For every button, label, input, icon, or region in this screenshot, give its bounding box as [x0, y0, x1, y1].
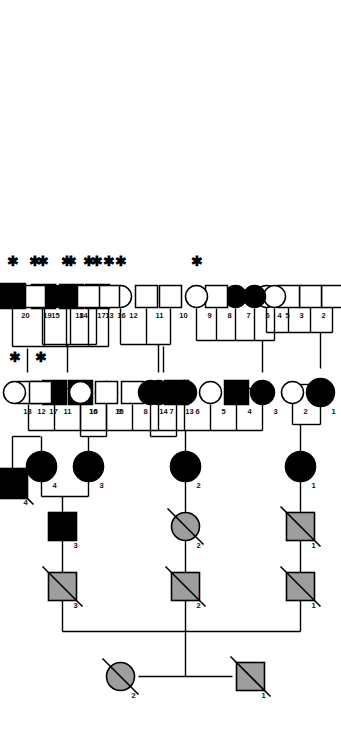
- id-label-VI-17: 17: [97, 311, 105, 320]
- asterisk-VI-12: ✱: [114, 253, 126, 267]
- person-VI-5[interactable]: [263, 285, 285, 307]
- id-label-VI-5: 5: [285, 311, 289, 320]
- person-IV-4b[interactable]: [0, 462, 33, 504]
- person-II-2[interactable]: [165, 566, 205, 606]
- id-label-VI-11: 11: [155, 311, 163, 320]
- asterisk-VI-20: ✱: [6, 253, 18, 267]
- id-label-V-16: 16: [89, 407, 97, 416]
- person-VI-9[interactable]: [185, 285, 207, 307]
- id-label-V-3: 3: [273, 407, 277, 416]
- id-label-V-11: 11: [63, 407, 71, 416]
- id-label-VI-15: 15: [51, 311, 59, 320]
- id-label-III-2: 2: [196, 541, 200, 550]
- person-V-4[interactable]: [224, 380, 248, 404]
- id-label-VI-20: 20: [21, 311, 29, 320]
- id-label-V-13: 13: [185, 407, 193, 416]
- asterisk-VI-17: ✱: [82, 253, 94, 267]
- id-label-VI-19: 19: [43, 311, 51, 320]
- person-II-3[interactable]: [42, 566, 82, 606]
- id-label-VI-10: 10: [179, 311, 187, 320]
- id-label-V-8: 8: [143, 407, 147, 416]
- id-label-I-1: 1: [261, 691, 265, 700]
- person-V-2[interactable]: [281, 381, 303, 403]
- person-VI-10[interactable]: [159, 285, 181, 307]
- id-label-VI-7: 7: [246, 311, 250, 320]
- asterisk-V-17: ✱: [34, 349, 46, 363]
- person-V-15[interactable]: [95, 381, 117, 403]
- id-label-IV-4b: 4: [23, 498, 27, 507]
- person-VI-19[interactable]: [23, 285, 45, 307]
- person-VI-17[interactable]: [77, 285, 99, 307]
- person-V-16[interactable]: [69, 381, 91, 403]
- person-V-5[interactable]: [199, 381, 221, 403]
- person-II-1[interactable]: [280, 566, 320, 606]
- person-V-14[interactable]: [138, 380, 162, 404]
- id-label-III-1: 1: [311, 541, 315, 550]
- id-label-V-17: 17: [49, 407, 57, 416]
- pedigree-figure: 1212312312344123456789101112131415161718…: [0, 0, 341, 736]
- person-V-17[interactable]: [29, 381, 51, 403]
- person-VI-16[interactable]: [97, 285, 119, 307]
- pedigree-symbols: [0, 0, 341, 736]
- person-I-1[interactable]: [230, 656, 270, 696]
- pedigree-rotation-wrapper: 1212312312344123456789101112131415161718…: [0, 0, 341, 736]
- id-label-IV-4: 4: [52, 481, 56, 490]
- person-V-18[interactable]: [3, 381, 25, 403]
- asterisk-VI-19: ✱: [28, 253, 40, 267]
- asterisk-VI-9: ✱: [190, 253, 202, 267]
- id-label-II-3: 3: [73, 601, 77, 610]
- id-label-V-14: 14: [159, 407, 167, 416]
- person-I-2[interactable]: [102, 658, 138, 694]
- id-label-VI-2: 2: [321, 311, 325, 320]
- id-label-V-5: 5: [221, 407, 225, 416]
- id-label-VI-12: 12: [129, 311, 137, 320]
- person-VI-20[interactable]: [0, 283, 25, 308]
- person-V-3[interactable]: [250, 380, 274, 404]
- asterisk-VI-16: ✱: [102, 253, 114, 267]
- pedigree-canvas: 1212312312344123456789101112131415161718…: [0, 0, 341, 736]
- id-label-V-4: 4: [247, 407, 251, 416]
- id-label-I-2: 2: [131, 691, 135, 700]
- person-IV-2[interactable]: [170, 451, 200, 481]
- id-label-VI-13: 13: [105, 311, 113, 320]
- id-label-VI-8: 8: [227, 311, 231, 320]
- person-VI-1[interactable]: [321, 285, 341, 307]
- id-label-IV-3: 3: [99, 481, 103, 490]
- person-III-3[interactable]: [48, 512, 76, 540]
- id-label-VI-18: 18: [75, 311, 83, 320]
- person-III-1[interactable]: [280, 506, 320, 546]
- asterisk-VI-18: ✱: [60, 253, 72, 267]
- person-IV-1[interactable]: [285, 451, 315, 481]
- person-VI-11[interactable]: [135, 285, 157, 307]
- person-V-1[interactable]: [306, 378, 334, 406]
- id-label-V-7: 7: [169, 407, 173, 416]
- asterisk-V-18: ✱: [8, 349, 20, 363]
- id-label-VI-16: 16: [117, 311, 125, 320]
- id-label-III-3: 3: [73, 541, 77, 550]
- id-label-V-18: 18: [23, 407, 31, 416]
- person-IV-3[interactable]: [73, 451, 103, 481]
- id-label-VI-4: 4: [277, 311, 281, 320]
- id-label-VI-3: 3: [299, 311, 303, 320]
- person-VI-18[interactable]: [44, 285, 66, 307]
- id-label-IV-1: 1: [311, 481, 315, 490]
- id-label-IV-2: 2: [196, 481, 200, 490]
- id-label-II-2: 2: [196, 601, 200, 610]
- person-VI-2[interactable]: [299, 285, 321, 307]
- id-label-V-12: 12: [37, 407, 45, 416]
- person-VI-8[interactable]: [205, 285, 227, 307]
- person-IV-4[interactable]: [26, 451, 56, 481]
- id-label-VI-9: 9: [207, 311, 211, 320]
- person-V-13[interactable]: [164, 380, 188, 404]
- id-label-VI-6: 6: [265, 311, 269, 320]
- id-label-II-1: 1: [311, 601, 315, 610]
- id-label-V-2: 2: [303, 407, 307, 416]
- id-label-V-15: 15: [115, 407, 123, 416]
- person-III-2[interactable]: [167, 508, 203, 544]
- id-label-V-1: 1: [331, 407, 335, 416]
- id-label-V-6: 6: [195, 407, 199, 416]
